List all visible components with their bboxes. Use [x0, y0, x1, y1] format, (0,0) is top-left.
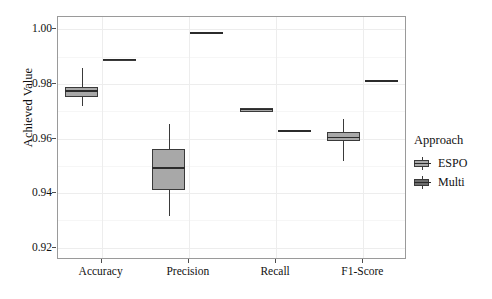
legend-label-multi: Multi: [438, 175, 465, 190]
grid-line-major: [58, 193, 405, 194]
y-tick-label: 0.94: [16, 187, 52, 197]
grid-line-vertical: [189, 17, 190, 258]
grid-line-major: [58, 29, 405, 30]
y-tick-label: 0.92: [16, 242, 52, 252]
legend: Approach ESPO Multi: [414, 133, 492, 193]
box-rect: [152, 149, 185, 190]
y-tick-label: 0.98: [16, 78, 52, 88]
grid-line-minor: [58, 57, 405, 58]
x-tick-mark: [188, 259, 189, 263]
x-tick-label: Accuracy: [79, 265, 123, 277]
x-tick-mark: [101, 259, 102, 263]
legend-item-espo[interactable]: ESPO: [414, 155, 492, 171]
grid-line-minor: [58, 166, 405, 167]
boxplot-figure: Achieved Value 0.920.940.960.981.00 Accu…: [0, 0, 492, 299]
y-tick-mark: [52, 247, 56, 248]
grid-line-major: [58, 84, 405, 85]
median-line: [65, 90, 98, 92]
median-line: [365, 80, 398, 82]
grid-line-vertical: [276, 17, 277, 258]
whisker-lower: [169, 190, 170, 215]
x-tick-label: Recall: [260, 265, 289, 277]
grid-line-major: [58, 248, 405, 249]
grid-line-minor: [58, 220, 405, 221]
x-tick-label: Precision: [166, 265, 209, 277]
whisker-upper: [82, 68, 83, 87]
legend-key-espo-icon: [414, 157, 431, 170]
median-line: [190, 32, 223, 34]
whisker-lower: [82, 97, 83, 107]
grid-line-vertical: [363, 17, 364, 258]
y-tick-mark: [52, 138, 56, 139]
y-tick-mark: [52, 83, 56, 84]
y-axis-ticks: 0.920.940.960.981.00: [12, 0, 52, 299]
median-line: [103, 59, 136, 61]
y-tick-label: 1.00: [16, 23, 52, 33]
y-tick-label: 0.96: [16, 133, 52, 143]
x-tick-label: F1-Score: [341, 265, 383, 277]
grid-line-minor: [58, 111, 405, 112]
whisker-upper: [343, 119, 344, 132]
median-line: [240, 109, 273, 111]
legend-label-espo: ESPO: [438, 156, 467, 171]
whisker-lower: [343, 141, 344, 161]
whisker-upper: [169, 124, 170, 149]
x-tick-mark: [362, 259, 363, 263]
legend-title: Approach: [414, 133, 492, 148]
legend-key-multi-icon: [414, 176, 431, 189]
median-line: [278, 130, 311, 132]
legend-item-multi[interactable]: Multi: [414, 174, 492, 190]
median-line: [327, 137, 360, 139]
y-tick-mark: [52, 192, 56, 193]
grid-line-vertical: [102, 17, 103, 258]
x-tick-mark: [275, 259, 276, 263]
y-tick-mark: [52, 28, 56, 29]
median-line: [152, 167, 185, 169]
